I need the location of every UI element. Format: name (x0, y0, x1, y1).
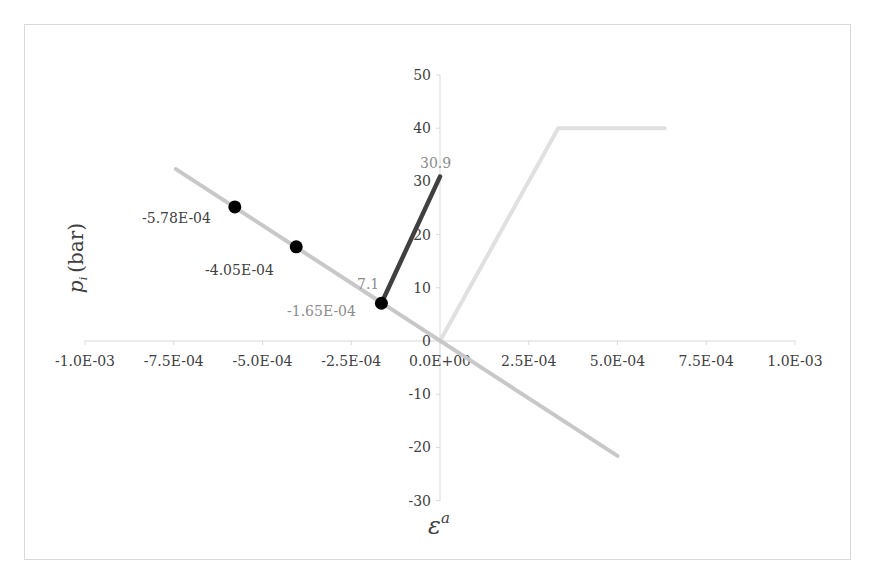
y-axis-title: pi(bar) (64, 223, 90, 293)
y-tick-label: -20 (408, 439, 431, 455)
svg-text:pi(bar): pi(bar) (64, 223, 90, 293)
x-axis-ticks: -1.0E-03-7.5E-04-5.0E-04-2.5E-040.0E+002… (55, 341, 823, 369)
decreasing-line-line (176, 169, 618, 456)
x-tick-label: -5.0E-04 (232, 353, 292, 369)
point-label-2: -4.05E-04 (205, 262, 274, 278)
dark-start-label: 7.1 (357, 276, 379, 292)
x-tick-label: 7.5E-04 (679, 353, 734, 369)
x-tick-label: -1.0E-03 (55, 353, 115, 369)
y-tick-label: 40 (413, 120, 431, 136)
x-tick-label: -2.5E-04 (321, 353, 381, 369)
chart-plot: 50403020100-10-20-30 -1.0E-03-7.5E-04-5.… (0, 0, 880, 587)
x-tick-label: 5.0E-04 (590, 353, 645, 369)
data-point-marker (375, 297, 388, 310)
y-tick-label: 50 (413, 67, 431, 83)
y-tick-label: 10 (413, 280, 431, 296)
y-tick-label: -30 (408, 493, 431, 509)
dark-segment-line (381, 177, 440, 304)
point-label-3: -1.65E-04 (287, 303, 356, 319)
point-label-1: -5.78E-04 (142, 210, 211, 226)
data-point-marker (290, 240, 303, 253)
x-tick-label: 2.5E-04 (501, 353, 556, 369)
y-tick-label: 30 (413, 173, 431, 189)
data-point-marker (228, 200, 241, 213)
x-tick-label: 1.0E-03 (767, 353, 822, 369)
x-tick-label: -7.5E-04 (144, 353, 204, 369)
light-bilinear-line (440, 128, 665, 341)
dark-end-label: 30.9 (420, 155, 451, 171)
y-axis-ticks: 50403020100-10-20-30 (408, 67, 440, 509)
x-axis-title: εa (428, 509, 450, 540)
y-tick-label: -10 (408, 386, 431, 402)
